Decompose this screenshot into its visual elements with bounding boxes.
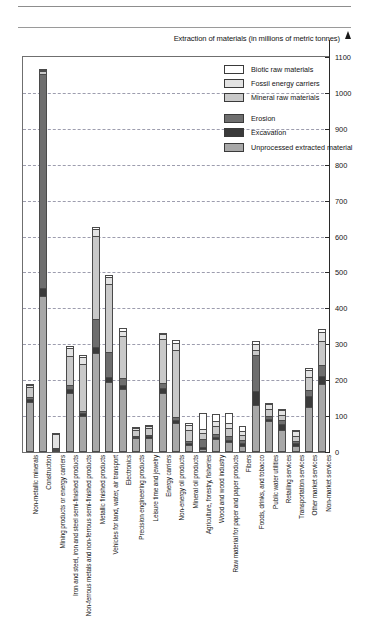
y-tick-label: 100 xyxy=(335,412,347,421)
bar-segment xyxy=(105,284,113,352)
bar-column xyxy=(26,384,34,452)
bar-column xyxy=(278,409,286,452)
bar-segment xyxy=(172,350,180,416)
bar-segment xyxy=(26,402,34,452)
x-axis-label: Mining products or energy carriers xyxy=(59,455,66,549)
bar-column xyxy=(159,333,167,452)
bar-segment xyxy=(318,376,326,384)
bar-segment xyxy=(92,236,100,319)
bar-segment xyxy=(199,439,207,447)
y-tick-label: 300 xyxy=(335,340,347,349)
bar-column xyxy=(145,425,153,452)
x-axis-label: Wood and wood industry xyxy=(218,455,225,523)
y-tick-label: 0 xyxy=(335,448,339,457)
bar-column xyxy=(292,430,300,452)
bar-segment xyxy=(199,413,207,430)
x-axis-label: Non-ferrous metals and non-ferrous semi-… xyxy=(85,455,92,616)
bar-segment xyxy=(305,396,313,407)
bar-segment xyxy=(145,438,153,452)
bar-column xyxy=(52,433,60,452)
bar-segment xyxy=(39,296,47,452)
y-tick-label: 800 xyxy=(335,160,347,169)
bar-column xyxy=(79,355,87,452)
y-tick-label: 1100 xyxy=(335,53,351,62)
bar-segment xyxy=(92,229,100,236)
y-tick-label: 200 xyxy=(335,376,347,385)
bar-segment xyxy=(39,288,47,296)
bar-segment xyxy=(305,407,313,452)
x-axis-label: Foods, drinks, and tobacco xyxy=(258,455,265,529)
y-tick-label: 600 xyxy=(335,232,347,241)
y-tick-label: 1000 xyxy=(335,88,351,97)
bar-column xyxy=(105,275,113,452)
bar-segment xyxy=(318,332,326,341)
bar-column xyxy=(39,69,47,452)
y-tick-mark xyxy=(325,452,330,453)
bar-segment xyxy=(66,348,74,356)
bar-segment xyxy=(172,343,180,351)
bar-segment xyxy=(66,356,74,385)
bar-column xyxy=(305,368,313,452)
bar-segment xyxy=(66,393,74,452)
x-axis-label: Non-energy oil products xyxy=(178,455,185,521)
bar-column xyxy=(252,341,260,452)
bar-segment xyxy=(212,414,220,421)
x-axis-label: Agriculture, forestry, fisheries xyxy=(205,455,212,534)
bar-segment xyxy=(145,428,153,435)
x-axis-label: Public water utilities xyxy=(272,455,279,509)
x-axis-label: Metallic finished products xyxy=(99,455,106,524)
bar-segment xyxy=(172,423,180,452)
y-axis-arrow-icon xyxy=(345,31,351,39)
bar-segment xyxy=(119,336,127,378)
bar-column xyxy=(239,426,247,453)
x-axis-label: Other market services xyxy=(311,455,318,515)
bar-segment xyxy=(79,364,87,411)
bar-segment xyxy=(239,446,247,452)
x-axis-label: Electronics xyxy=(125,455,132,485)
bar-segment xyxy=(132,438,140,452)
bar-segment xyxy=(185,445,193,452)
bar-segment xyxy=(318,341,326,365)
page-rule-top xyxy=(18,6,351,7)
bar-segment xyxy=(92,319,100,347)
bar-segment xyxy=(252,391,260,405)
bar-segment xyxy=(199,449,207,452)
x-axis-label: Construction xyxy=(45,455,52,490)
x-axis-label: Non-market services xyxy=(325,455,332,512)
bar-segment xyxy=(79,416,87,452)
bar-column xyxy=(66,346,74,452)
x-axis-label: Non-metallic minerals xyxy=(32,455,39,514)
chart-title: Extraction of materials (in millions of … xyxy=(174,34,340,43)
bar-segment xyxy=(39,74,47,288)
x-axis-labels: Non-metallic mineralsConstructionMining … xyxy=(23,455,329,633)
bar-segment xyxy=(292,446,300,452)
bar-column xyxy=(92,227,100,452)
x-axis-label: Leisure time and jewelry xyxy=(152,455,159,522)
y-tick-label: 700 xyxy=(335,196,347,205)
bar-segment xyxy=(159,393,167,452)
y-tick-label: 400 xyxy=(335,304,347,313)
bar-column xyxy=(199,413,207,452)
bar-column xyxy=(185,423,193,452)
bar-segment xyxy=(318,384,326,452)
bar-segment xyxy=(212,426,220,434)
bar-segment xyxy=(265,421,273,452)
bar-segment xyxy=(305,377,313,390)
page-rule-secondary xyxy=(18,27,351,28)
bar-segment xyxy=(159,339,167,384)
bar-segment xyxy=(79,357,87,364)
x-axis-label: Iron and steel, iron and steel semi-fini… xyxy=(72,455,79,596)
bar-series-layer xyxy=(23,57,329,452)
bar-column xyxy=(119,328,127,452)
x-axis-label: Energy carriers xyxy=(165,455,172,497)
bar-column xyxy=(265,403,273,452)
bar-segment xyxy=(212,439,220,452)
bar-segment xyxy=(185,430,193,441)
bar-segment xyxy=(305,370,313,377)
bar-segment xyxy=(52,450,60,452)
x-axis-label: Precision engineering products xyxy=(138,455,145,540)
bar-segment xyxy=(52,434,60,448)
y-tick-label: 900 xyxy=(335,124,347,133)
bar-column xyxy=(225,413,233,452)
x-axis-label: Raw material for paper and paper product… xyxy=(232,455,239,572)
